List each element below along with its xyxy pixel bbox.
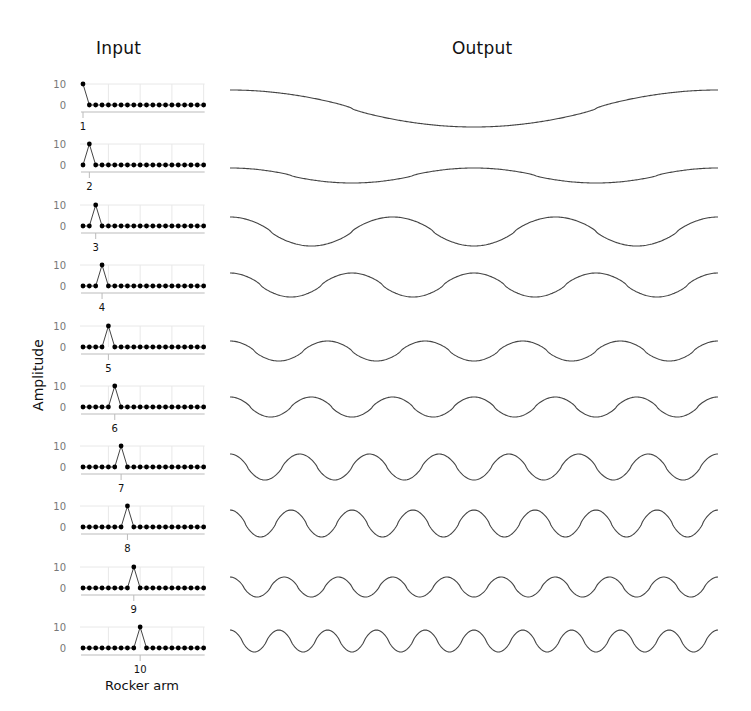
input-dot: [195, 586, 200, 591]
input-dot: [138, 586, 143, 591]
input-dot: [87, 465, 92, 470]
input-dot: [201, 525, 206, 530]
input-dot: [182, 163, 187, 168]
input-dot: [106, 163, 111, 168]
input-dot: [144, 345, 149, 350]
y-tick-label: 0: [60, 402, 66, 413]
input-plot-2: 2100: [53, 139, 206, 193]
y-tick-label: 0: [60, 522, 66, 533]
input-dot: [170, 465, 175, 470]
input-dot: [157, 345, 162, 350]
rocker-arm-index-label: 10: [134, 664, 147, 675]
input-dot: [112, 525, 117, 530]
input-dot: [157, 163, 162, 168]
output-waveform-2: [230, 168, 718, 183]
input-dot: [176, 163, 181, 168]
input-dot: [131, 345, 136, 350]
input-dot: [106, 224, 111, 229]
input-dot: [138, 625, 143, 630]
input-dot: [170, 646, 175, 651]
output-waveform-9: [230, 577, 718, 597]
y-tick-label: 0: [60, 342, 66, 353]
input-dot: [125, 504, 130, 509]
input-dot: [195, 224, 200, 229]
input-line: [83, 386, 204, 407]
rocker-arm-index-label: 7: [118, 483, 124, 494]
input-dot: [106, 324, 111, 329]
input-dot: [125, 345, 130, 350]
input-dot: [170, 103, 175, 108]
y-tick-label: 10: [53, 381, 66, 392]
input-dot: [163, 646, 168, 651]
y-tick-label: 10: [53, 139, 66, 150]
y-tick-label: 0: [60, 583, 66, 594]
input-dot: [119, 224, 124, 229]
input-dot: [176, 405, 181, 410]
input-dot: [87, 103, 92, 108]
input-dot: [176, 224, 181, 229]
input-dot: [131, 465, 136, 470]
input-dot: [119, 646, 124, 651]
input-plot-9: 9100: [53, 562, 206, 616]
input-dot: [176, 586, 181, 591]
input-dot: [144, 224, 149, 229]
input-dot: [100, 163, 105, 168]
input-dot: [170, 224, 175, 229]
output-waveform-5: [230, 341, 718, 361]
output-waveform-6: [230, 397, 718, 417]
input-dot: [189, 163, 194, 168]
input-dot: [150, 405, 155, 410]
input-dot: [201, 163, 206, 168]
input-dot: [100, 263, 105, 268]
input-dot: [131, 525, 136, 530]
input-dot: [157, 646, 162, 651]
input-dot: [201, 465, 206, 470]
input-dot: [182, 525, 187, 530]
input-dot: [112, 103, 117, 108]
input-dot: [201, 284, 206, 289]
input-dot: [100, 465, 105, 470]
input-plot-6: 6100: [53, 381, 206, 435]
input-dot: [106, 103, 111, 108]
input-dot: [125, 465, 130, 470]
input-line: [83, 84, 204, 105]
input-dot: [93, 284, 98, 289]
input-dot: [144, 525, 149, 530]
input-dot: [93, 203, 98, 208]
y-tick-label: 10: [53, 79, 66, 90]
input-dot: [144, 163, 149, 168]
output-waveform-3: [230, 217, 718, 246]
input-dot: [195, 646, 200, 651]
input-dot: [201, 345, 206, 350]
input-dot: [170, 345, 175, 350]
input-dot: [93, 586, 98, 591]
input-dot: [138, 163, 143, 168]
input-dot: [138, 284, 143, 289]
input-plot-7: 7100: [53, 441, 206, 495]
input-dot: [119, 525, 124, 530]
y-tick-label: 0: [60, 160, 66, 171]
output-waveform-1: [230, 90, 718, 127]
input-dot: [138, 224, 143, 229]
input-dot: [112, 224, 117, 229]
input-dot: [201, 224, 206, 229]
input-line: [83, 506, 204, 527]
input-dot: [182, 586, 187, 591]
input-dot: [131, 284, 136, 289]
input-dot: [125, 586, 130, 591]
input-dot: [119, 284, 124, 289]
input-dot: [195, 405, 200, 410]
input-dot: [144, 103, 149, 108]
input-line: [83, 446, 204, 467]
input-dot: [195, 284, 200, 289]
rocker-arm-index-label: 9: [131, 604, 137, 615]
input-dot: [195, 525, 200, 530]
input-dot: [81, 345, 86, 350]
input-dot: [176, 465, 181, 470]
input-dot: [189, 586, 194, 591]
input-dot: [176, 103, 181, 108]
input-dot: [87, 345, 92, 350]
input-dot: [87, 142, 92, 147]
input-plot-1: 1100: [53, 79, 206, 133]
y-tick-label: 10: [53, 441, 66, 452]
